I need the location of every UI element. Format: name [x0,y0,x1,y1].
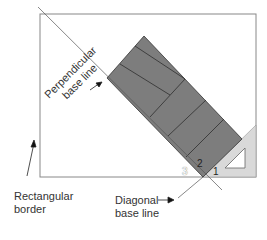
corner-number-1: 1 [213,166,219,177]
border-arrow-shaft [27,143,34,176]
rectangular-border-label: Rectangular border [14,190,73,216]
diagonal-label-line1: Diagonal [115,194,159,207]
rectangular-label-line2: border [14,203,73,216]
rectangular-label-line1: Rectangular [14,190,73,203]
perpendicular-arrow-head-icon [96,82,102,87]
border-arrow-head-icon [31,140,36,147]
diagonal-label-line2: base line [115,207,159,220]
diagonal-base-line-extension [178,177,203,198]
diagonal-arrow-head-icon [168,197,174,203]
tile-block [107,36,242,177]
corner-number-3: 3 [182,166,188,177]
diagonal-base-line-label: Diagonal base line [115,194,159,220]
corner-number-2: 2 [197,158,203,169]
